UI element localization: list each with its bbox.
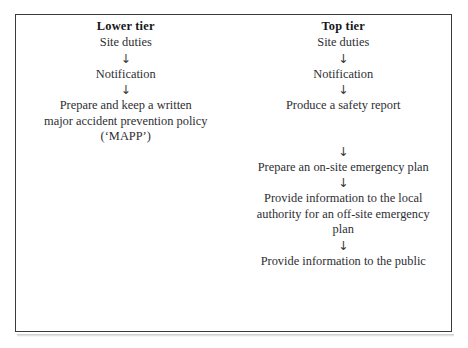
node-top-offsite-line2: authority for an off-site emergency	[257, 207, 430, 223]
node-lower-mapp-line2: major accident prevention policy	[44, 114, 207, 130]
node-lower-notification: Notification	[96, 67, 156, 83]
column-header-top-tier: Top tier	[322, 19, 365, 34]
arrow-down-icon: ↓	[121, 82, 131, 98]
node-top-offsite-emergency-plan: Provide information to the local authori…	[257, 191, 430, 238]
arrow-down-icon: ↓	[338, 238, 348, 254]
node-lower-mapp-line3: (‘MAPP’)	[44, 129, 207, 145]
arrow-down-icon: ↓	[338, 51, 348, 67]
flowchart-frame: Lower tier Site duties ↓ Notification ↓ …	[15, 14, 452, 332]
node-lower-mapp: Prepare and keep a written major acciden…	[44, 98, 207, 145]
figure-screen: Lower tier Site duties ↓ Notification ↓ …	[0, 0, 468, 348]
node-top-notification: Notification	[313, 67, 373, 83]
arrow-down-icon: ↓	[338, 82, 348, 98]
arrow-down-icon: ↓	[338, 144, 348, 160]
node-top-offsite-line3: plan	[257, 222, 430, 238]
arrow-down-icon: ↓	[338, 175, 348, 191]
node-top-offsite-line1: Provide information to the local	[257, 191, 430, 207]
column-header-lower-tier: Lower tier	[97, 19, 155, 34]
node-top-safety-report: Produce a safety report	[286, 98, 401, 114]
arrow-down-icon: ↓	[121, 51, 131, 67]
node-lower-mapp-line1: Prepare and keep a written	[44, 98, 207, 114]
flowchart-columns: Lower tier Site duties ↓ Notification ↓ …	[16, 15, 451, 331]
node-lower-site-duties: Site duties	[100, 35, 152, 51]
node-top-onsite-emergency-plan: Prepare an on-site emergency plan	[258, 160, 429, 176]
node-top-site-duties: Site duties	[317, 35, 369, 51]
column-top-tier: Top tier Site duties ↓ Notification ↓ Pr…	[234, 15, 452, 331]
node-top-inform-public: Provide information to the public	[261, 254, 426, 270]
column-lower-tier: Lower tier Site duties ↓ Notification ↓ …	[16, 15, 234, 331]
figure-drop-shadow	[17, 334, 454, 337]
